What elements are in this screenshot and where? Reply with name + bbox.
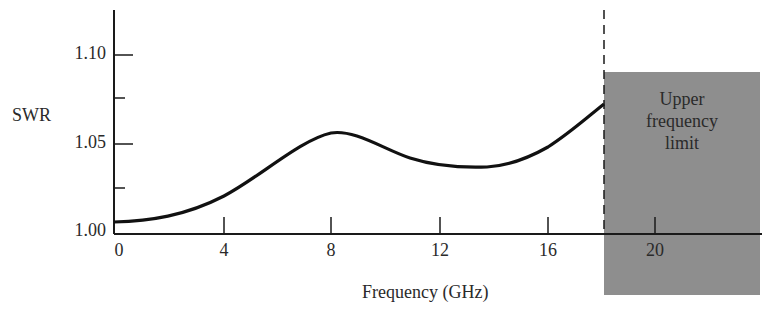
- x-tick-label: 8: [311, 240, 351, 261]
- region-label: Upper frequency limit: [604, 88, 760, 154]
- y-tick-label: 1.05: [46, 132, 106, 153]
- x-tick-label: 0: [99, 240, 139, 261]
- chart-canvas: [0, 0, 768, 314]
- x-axis-label: Frequency (GHz): [362, 282, 488, 303]
- y-tick-label: 1.00: [46, 220, 106, 241]
- region-label-line: limit: [604, 132, 760, 154]
- x-tick-label: 16: [528, 240, 568, 261]
- y-ticks: [114, 55, 133, 188]
- region-label-line: Upper: [604, 88, 760, 110]
- swr-curve: [114, 104, 604, 222]
- x-tick-label: 4: [204, 240, 244, 261]
- x-tick-label: 12: [420, 240, 460, 261]
- x-tick-label: 20: [635, 240, 675, 261]
- x-ticks: [224, 217, 655, 234]
- y-axis-label: SWR: [12, 105, 51, 126]
- region-label-line: frequency: [604, 110, 760, 132]
- y-tick-label: 1.10: [46, 43, 106, 64]
